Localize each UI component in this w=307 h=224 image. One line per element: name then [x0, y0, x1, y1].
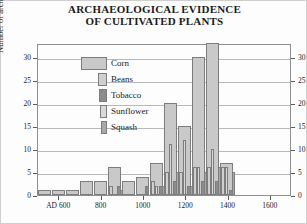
- bar-sunflower: [183, 140, 186, 195]
- y-axis-tick-label-right: 20: [298, 100, 307, 108]
- y-axis-tick-label: 15: [11, 123, 31, 131]
- y-axis-tick-mark-right: [291, 58, 295, 59]
- y-axis-tick-label: 5: [11, 169, 31, 177]
- legend-label-tobacco: Tobacco: [111, 89, 141, 101]
- bar-beans: [109, 186, 113, 195]
- y-axis-tick-label-right: 10: [298, 146, 307, 154]
- legend-swatch-sunflower: [100, 105, 107, 118]
- bar-corn: [38, 190, 51, 195]
- x-axis-tick-label: 1600: [245, 202, 295, 210]
- legend-item-tobacco[interactable]: Tobacco: [55, 88, 175, 104]
- x-axis-tick-mark: [101, 196, 102, 200]
- y-axis-tick-mark-right: [291, 196, 295, 197]
- bar-sunflower: [225, 167, 228, 195]
- x-axis-tick-mark: [143, 196, 144, 200]
- legend-swatch-corn: [81, 57, 107, 70]
- y-axis-tick-mark-right: [291, 104, 295, 105]
- legend-item-sunflower[interactable]: Sunflower: [55, 104, 175, 120]
- bar-tobacco: [145, 186, 149, 195]
- legend-swatch-squash: [101, 121, 107, 134]
- bar-squash: [204, 172, 207, 195]
- legend-label-beans: Beans: [111, 73, 133, 85]
- chart-legend: CornBeansTobaccoSunflowerSquash: [55, 56, 175, 136]
- bar-beans: [221, 167, 225, 195]
- y-axis-tick-label-right: 30: [298, 54, 307, 62]
- y-axis-tick-label-right: 5: [298, 169, 307, 177]
- bar-corn: [94, 181, 107, 195]
- bar-sunflower: [155, 186, 158, 195]
- y-axis-tick-label: 10: [11, 146, 31, 154]
- y-axis-tick-mark-right: [291, 150, 295, 151]
- y-axis-tick-label: 20: [11, 100, 31, 108]
- legend-item-squash[interactable]: Squash: [55, 120, 175, 136]
- chart-title-line-1: ARCHAEOLOGICAL EVIDENCE: [1, 4, 307, 16]
- legend-label-squash: Squash: [111, 121, 137, 133]
- legend-item-corn[interactable]: Corn: [55, 56, 175, 72]
- chart-title: ARCHAEOLOGICAL EVIDENCE OF CULTIVATED PL…: [1, 4, 307, 27]
- bar-corn: [52, 190, 65, 195]
- y-axis-tick-mark: [33, 58, 37, 59]
- bar-squash: [176, 172, 179, 195]
- chart-title-line-2: OF CULTIVATED PLANTS: [1, 16, 307, 28]
- y-axis-tick-mark-right: [291, 173, 295, 174]
- y-axis-tick-label-right: 0: [298, 192, 307, 200]
- chart-figure: ARCHAEOLOGICAL EVIDENCE OF CULTIVATED PL…: [0, 0, 307, 224]
- y-axis-tick-mark-right: [291, 127, 295, 128]
- bar-beans: [151, 181, 155, 195]
- y-axis-tick-mark: [33, 196, 37, 197]
- bar-sunflower: [211, 149, 214, 195]
- x-axis-tick-mark: [58, 196, 59, 200]
- x-axis-tick-mark: [270, 196, 271, 200]
- y-axis-tick-mark: [33, 173, 37, 174]
- legend-item-beans[interactable]: Beans: [55, 72, 175, 88]
- x-axis-tick-mark: [185, 196, 186, 200]
- y-axis-label: Number of archaeological sites: [0, 0, 5, 53]
- bar-corn: [80, 181, 93, 195]
- y-axis-tick-label: 25: [11, 77, 31, 85]
- y-axis-tick-label: 30: [11, 54, 31, 62]
- y-axis-tick-mark: [33, 104, 37, 105]
- bar-corn: [66, 190, 79, 195]
- bar-sunflower: [197, 167, 200, 195]
- bar-beans: [207, 167, 211, 195]
- bar-sunflower: [169, 144, 172, 195]
- y-axis-tick-mark: [33, 150, 37, 151]
- y-axis-tick-mark: [33, 81, 37, 82]
- legend-label-sunflower: Sunflower: [111, 105, 149, 117]
- bar-squash: [218, 167, 221, 195]
- bar-squash: [162, 186, 165, 195]
- legend-label-corn: Corn: [111, 57, 129, 69]
- bar-beans: [165, 172, 169, 195]
- legend-swatch-tobacco: [99, 89, 107, 102]
- bar-corn: [122, 181, 135, 195]
- y-axis-tick-label-right: 25: [298, 77, 307, 85]
- legend-swatch-beans: [98, 73, 107, 86]
- y-axis-tick-label: 0: [11, 192, 31, 200]
- y-axis-tick-mark-right: [291, 81, 295, 82]
- bar-beans: [193, 167, 197, 195]
- bar-beans: [179, 172, 183, 195]
- y-axis-tick-label-right: 15: [298, 123, 307, 131]
- y-axis-tick-mark: [33, 127, 37, 128]
- bar-squash: [120, 190, 123, 195]
- bar-squash: [190, 186, 193, 195]
- x-axis-tick-mark: [228, 196, 229, 200]
- bar-squash: [232, 172, 235, 195]
